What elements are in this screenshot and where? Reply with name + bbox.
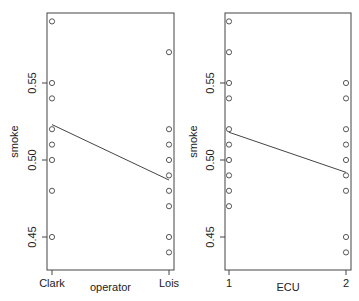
data-point bbox=[166, 204, 171, 209]
chart-canvas: 0.450.500.55ClarkLoisoperatorsmoke0.450.… bbox=[0, 0, 359, 301]
data-point bbox=[166, 50, 171, 55]
data-point bbox=[49, 19, 54, 24]
mean-line bbox=[229, 132, 346, 172]
data-point bbox=[343, 250, 348, 255]
data-point bbox=[226, 142, 231, 147]
x-tick-label: Clark bbox=[39, 277, 65, 289]
data-point bbox=[166, 142, 171, 147]
data-point bbox=[226, 173, 231, 178]
x-axis-label: operator bbox=[90, 281, 131, 293]
panel-left: 0.450.500.55ClarkLoisoperatorsmoke bbox=[8, 13, 180, 293]
data-point bbox=[166, 250, 171, 255]
data-point bbox=[343, 142, 348, 147]
data-point bbox=[343, 173, 348, 178]
x-tick-label: 1 bbox=[226, 277, 232, 289]
data-point bbox=[166, 127, 171, 132]
y-axis-label: smoke bbox=[187, 125, 199, 157]
data-point bbox=[226, 50, 231, 55]
y-tick-label: 0.45 bbox=[204, 226, 216, 247]
data-point bbox=[343, 188, 348, 193]
data-point bbox=[49, 188, 54, 193]
mean-line bbox=[52, 125, 169, 180]
data-point bbox=[49, 127, 54, 132]
panel-right: 0.450.500.5512ECUsmoke bbox=[187, 13, 351, 293]
data-point bbox=[343, 234, 348, 239]
x-axis-label: ECU bbox=[276, 281, 299, 293]
y-tick-label: 0.45 bbox=[26, 226, 38, 247]
plot-frame bbox=[225, 13, 351, 270]
data-point bbox=[49, 80, 54, 85]
data-point bbox=[226, 157, 231, 162]
data-point bbox=[226, 204, 231, 209]
data-point bbox=[166, 157, 171, 162]
data-point bbox=[166, 173, 171, 178]
data-point bbox=[49, 234, 54, 239]
data-point bbox=[49, 157, 54, 162]
data-point bbox=[49, 142, 54, 147]
data-point bbox=[226, 188, 231, 193]
data-point bbox=[166, 188, 171, 193]
plot-frame bbox=[47, 13, 174, 270]
data-point bbox=[226, 96, 231, 101]
data-point bbox=[226, 127, 231, 132]
y-tick-label: 0.55 bbox=[26, 72, 38, 93]
y-tick-label: 0.50 bbox=[204, 149, 216, 170]
data-point bbox=[166, 234, 171, 239]
y-tick-label: 0.50 bbox=[26, 149, 38, 170]
x-tick-label: Lois bbox=[159, 277, 180, 289]
y-axis-label: smoke bbox=[8, 125, 20, 157]
data-point bbox=[226, 80, 231, 85]
data-point bbox=[343, 127, 348, 132]
y-tick-label: 0.55 bbox=[204, 72, 216, 93]
data-point bbox=[343, 157, 348, 162]
data-point bbox=[49, 96, 54, 101]
data-point bbox=[343, 80, 348, 85]
x-tick-label: 2 bbox=[343, 277, 349, 289]
data-point bbox=[226, 19, 231, 24]
data-point bbox=[343, 96, 348, 101]
